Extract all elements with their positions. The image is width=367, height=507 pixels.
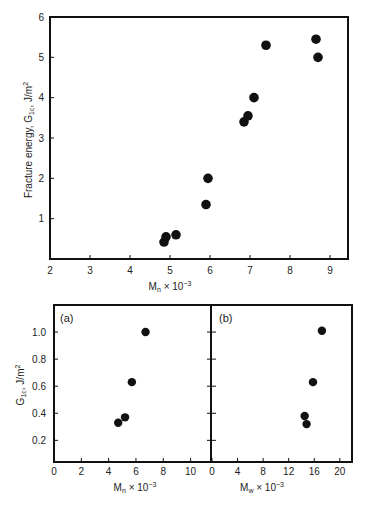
x-tick-label: 12	[283, 466, 295, 477]
bottom-y-axis-title: G1c, J/m2	[14, 365, 27, 406]
data-point	[128, 378, 136, 386]
x-tick-label: 2	[47, 265, 53, 276]
top-data-points	[159, 34, 323, 246]
data-point	[300, 412, 308, 420]
data-point	[311, 34, 321, 44]
panel-b-x-axis-title: Mw × 10−3	[240, 481, 284, 494]
x-tick-label: 10	[185, 466, 197, 477]
x-tick-label: 6	[207, 265, 213, 276]
top-plot-frame	[50, 17, 348, 259]
x-tick-label: 0	[51, 466, 57, 477]
y-tick-label: 5	[38, 52, 44, 63]
data-point	[161, 232, 171, 242]
y-tick-label: 2	[38, 173, 44, 184]
data-point	[261, 40, 271, 50]
x-tick-label: 6	[133, 466, 139, 477]
x-tick-label: 20	[334, 466, 346, 477]
data-point	[121, 413, 129, 421]
y-tick-label: 4	[38, 92, 44, 103]
y-tick-label: 0.2	[32, 435, 46, 446]
top-y-axis-title: Fracture energy, G1c, J/m2	[22, 82, 35, 198]
panel-b-data-points	[300, 327, 326, 429]
data-point	[203, 174, 213, 184]
panel-b-label: (b)	[219, 312, 232, 324]
data-point	[249, 93, 259, 103]
data-point	[309, 378, 317, 386]
data-point	[201, 200, 211, 210]
data-point	[313, 53, 323, 63]
x-tick-label: 8	[260, 466, 266, 477]
x-tick-label: 8	[161, 466, 167, 477]
x-tick-label: 7	[247, 265, 253, 276]
x-tick-label: 3	[87, 265, 93, 276]
data-point	[114, 419, 122, 427]
y-tick-label: 1.0	[32, 327, 46, 338]
x-tick-label: 8	[287, 265, 293, 276]
x-tick-label: 4	[127, 265, 133, 276]
x-tick-label: 4	[235, 466, 241, 477]
top-x-axis-title: Mn × 10−3	[149, 280, 192, 293]
panel-b-frame	[211, 305, 352, 462]
top-y-axis: 123456	[38, 12, 54, 225]
panel-a-data-points	[114, 328, 150, 427]
y-tick-label: 0.4	[32, 408, 46, 419]
panel-a-x-axis: 0246810	[51, 458, 196, 477]
figure: 23456789 123456 Fracture energy, G1c, J/…	[0, 0, 367, 507]
panel-a-y-axis: 0.20.40.60.81.0	[32, 327, 211, 446]
data-point	[141, 328, 149, 336]
y-tick-label: 3	[38, 133, 44, 144]
x-tick-label: 0	[209, 466, 215, 477]
y-tick-label: 0.8	[32, 354, 46, 365]
panel-a-label: (a)	[60, 312, 73, 324]
panel-a: 0246810 0.20.40.60.81.0 (a) G1c, J/m2 Mn…	[14, 305, 211, 494]
panel-b: 048121620 (b) Mw × 10−3	[209, 305, 352, 494]
panel-b-x-axis: 048121620	[209, 458, 346, 477]
x-tick-label: 9	[327, 265, 333, 276]
top-scatter-panel: 23456789 123456 Fracture energy, G1c, J/…	[22, 12, 348, 294]
data-point	[318, 327, 326, 335]
data-point	[243, 111, 253, 121]
x-tick-label: 5	[167, 265, 173, 276]
x-tick-label: 16	[309, 466, 321, 477]
data-point	[302, 420, 310, 428]
x-tick-label: 2	[79, 466, 85, 477]
data-point	[171, 230, 181, 240]
panel-b-y-axis	[212, 332, 216, 440]
y-tick-label: 1	[38, 213, 44, 224]
y-tick-label: 0.6	[32, 381, 46, 392]
x-tick-label: 4	[106, 466, 112, 477]
y-tick-label: 6	[38, 12, 44, 23]
panel-a-x-axis-title: Mn × 10−3	[114, 481, 157, 494]
